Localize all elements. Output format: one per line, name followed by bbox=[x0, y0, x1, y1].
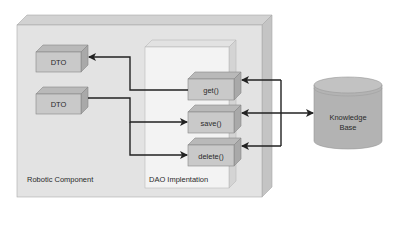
database-label-line2: Base bbox=[339, 123, 356, 132]
robotic-component-label: Robotic Component bbox=[27, 175, 94, 184]
knowledge-base-database[interactable]: Knowledge Base bbox=[314, 77, 382, 149]
dao-top bbox=[145, 40, 236, 47]
method-box-get[interactable]: get() bbox=[188, 72, 241, 100]
dto-label: DTO bbox=[51, 58, 67, 67]
method-box-save[interactable]: save() bbox=[188, 105, 241, 133]
method-label: get() bbox=[203, 86, 219, 95]
method-label: save() bbox=[201, 119, 222, 128]
dao-implementation-label: DAO Implentation bbox=[149, 175, 208, 184]
diagram-canvas: Robotic Component DAO Implentation DTO D… bbox=[0, 0, 403, 225]
dto-label: DTO bbox=[51, 100, 67, 109]
robotic-component-top bbox=[17, 15, 272, 25]
database-top bbox=[314, 77, 382, 93]
robotic-component-side bbox=[262, 15, 272, 197]
database-label-line1: Knowledge bbox=[329, 113, 366, 122]
method-box-delete[interactable]: delete() bbox=[188, 138, 241, 166]
method-label: delete() bbox=[198, 152, 224, 161]
dto-box-bottom[interactable]: DTO bbox=[36, 87, 88, 114]
dto-box-top[interactable]: DTO bbox=[36, 45, 88, 72]
